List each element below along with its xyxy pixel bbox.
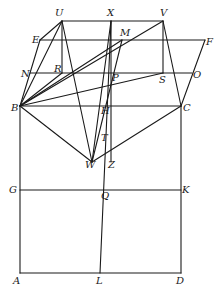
point-label-B: B: [10, 102, 18, 113]
point-label-Z: Z: [107, 159, 116, 170]
point-label-X: X: [106, 7, 115, 18]
segment-WM: [92, 40, 122, 162]
point-label-N: N: [20, 68, 31, 79]
point-label-U: U: [55, 7, 64, 18]
segment-BW: [20, 106, 92, 162]
point-label-K: K: [181, 184, 190, 195]
segment-EU: [40, 21, 62, 40]
point-label-A: A: [12, 275, 20, 286]
point-label-F: F: [205, 36, 214, 47]
geometry-diagram: UXVEMFNRPSOBHCTWZGQKALD: [0, 0, 218, 297]
point-label-D: D: [175, 275, 184, 286]
line-segments: [20, 21, 205, 273]
point-label-C: C: [183, 102, 191, 113]
point-label-P: P: [111, 72, 119, 83]
point-label-Q: Q: [101, 190, 109, 201]
point-label-L: L: [95, 275, 103, 286]
point-label-R: R: [53, 63, 62, 74]
point-label-T: T: [101, 132, 109, 143]
point-label-M: M: [119, 27, 131, 38]
point-label-V: V: [160, 7, 169, 18]
segment-VC: [163, 21, 181, 106]
point-label-O: O: [193, 69, 201, 80]
point-label-G: G: [9, 184, 17, 195]
point-label-S: S: [159, 74, 166, 85]
point-label-H: H: [100, 105, 110, 116]
segment-UW: [62, 21, 92, 162]
point-label-W: W: [85, 159, 96, 170]
point-label-E: E: [31, 34, 40, 45]
